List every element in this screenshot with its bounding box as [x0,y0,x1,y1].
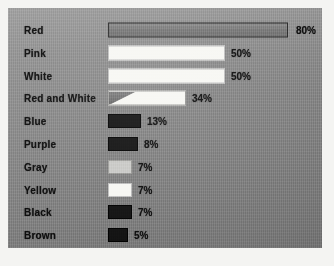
bar-value-label: 8% [144,139,158,150]
bar [108,228,128,242]
bar [108,160,132,174]
bar-row: Purple8% [8,132,322,156]
bar-row: White50% [8,64,322,88]
scanned-page: Red80%Pink50%White50%Red and White34%Blu… [0,0,334,266]
bar-row: Yellow7% [8,178,322,202]
bar-category-label: Red and White [24,93,96,104]
bar [108,183,132,197]
bar-rows-container: Red80%Pink50%White50%Red and White34%Blu… [8,8,322,248]
bar-chart-panel: Red80%Pink50%White50%Red and White34%Blu… [8,8,322,248]
bar-wedge-segment [109,92,135,105]
bar-value-label: 7% [138,184,152,195]
bar-value-label: 80% [296,25,316,36]
bar-category-label: Blue [24,116,46,127]
bar-value-label: 13% [147,116,167,127]
bar-row: Red80% [8,18,322,42]
bar-value-label: 34% [192,93,212,104]
bar-category-label: White [24,70,52,81]
bar [108,68,225,83]
bar-category-label: Black [24,207,52,218]
bar-category-label: Pink [24,47,46,58]
bar-value-label: 5% [134,230,148,241]
bar-row: Black7% [8,200,322,224]
bar [108,137,138,151]
bar-value-label: 7% [138,207,152,218]
bar-category-label: Red [24,25,44,36]
bar-row: Gray7% [8,155,322,179]
bar-value-label: 7% [138,161,152,172]
bar-row: Brown5% [8,223,322,247]
bar-value-label: 50% [231,70,251,81]
bar [108,114,141,128]
bar-category-label: Gray [24,161,48,172]
bar-category-label: Purple [24,139,56,150]
bar-row: Red and White34% [8,86,322,110]
bar-value-label: 50% [231,47,251,58]
bar-category-label: Brown [24,230,56,241]
bar-row: Blue13% [8,109,322,133]
bar [108,205,132,219]
bar-row: Pink50% [8,41,322,65]
bar [108,91,186,106]
bar [108,45,225,60]
bar [108,23,288,38]
bar-category-label: Yellow [24,184,56,195]
